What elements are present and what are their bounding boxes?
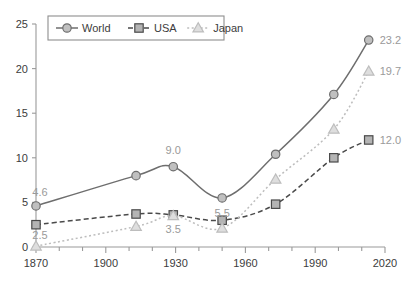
x-tick-label: 1990: [303, 257, 327, 269]
square-marker-icon: [365, 136, 373, 144]
series-line: [36, 40, 369, 206]
square-marker-icon: [32, 221, 40, 229]
y-tick-label: 10: [16, 152, 28, 164]
circle-marker-icon: [32, 202, 40, 210]
data-point-label: 9.0: [166, 144, 181, 156]
line-chart: 0510152025 187019001930196019902020 4.69…: [0, 0, 412, 284]
series-japan: [31, 66, 374, 250]
data-point-label: 4.6: [32, 186, 47, 198]
x-tick-label: 1960: [233, 257, 257, 269]
square-marker-icon: [330, 154, 338, 162]
data-point-label: 5.5: [214, 207, 229, 219]
circle-marker-icon: [169, 163, 177, 171]
y-axis: 0510152025: [16, 18, 36, 253]
data-point-label: 2.5: [32, 229, 47, 241]
legend-item-label: USA: [154, 22, 177, 34]
data-point-label: 23.2: [380, 34, 401, 46]
x-tick-label: 1930: [163, 257, 187, 269]
series-usa: [32, 136, 373, 229]
circle-marker-icon: [218, 194, 226, 202]
circle-marker-icon: [330, 90, 338, 98]
y-tick-label: 15: [16, 107, 28, 119]
circle-marker-icon: [365, 36, 373, 44]
y-tick-label: 25: [16, 18, 28, 30]
y-tick-label: 0: [22, 241, 28, 253]
series-line: [36, 140, 369, 225]
data-point-label: 12.0: [380, 134, 401, 146]
square-marker-icon: [135, 24, 143, 32]
legend-item-label: World: [82, 22, 111, 34]
x-tick-label: 1870: [24, 257, 48, 269]
circle-marker-icon: [132, 171, 140, 179]
triangle-marker-icon: [31, 241, 42, 250]
data-series-group: [31, 36, 374, 250]
y-tick-label: 5: [22, 196, 28, 208]
triangle-marker-icon: [363, 66, 374, 75]
y-tick-label: 20: [16, 63, 28, 75]
series-world: [32, 36, 373, 210]
x-tick-label: 1900: [94, 257, 118, 269]
chart-canvas: 0510152025 187019001930196019902020 4.69…: [0, 0, 412, 284]
legend-item-label: Japan: [213, 22, 243, 34]
chart-legend: WorldUSAJapan: [48, 16, 243, 40]
circle-marker-icon: [63, 24, 71, 32]
square-marker-icon: [132, 210, 140, 218]
data-point-label: 19.7: [380, 65, 401, 77]
square-marker-icon: [271, 200, 279, 208]
x-tick-label: 2020: [373, 257, 397, 269]
data-point-label: 3.5: [166, 223, 181, 235]
x-axis: 187019001930196019902020: [24, 247, 397, 269]
circle-marker-icon: [271, 150, 279, 158]
series-line: [36, 71, 369, 246]
point-labels-group: 4.69.05.523.22.512.03.519.7: [32, 34, 401, 241]
